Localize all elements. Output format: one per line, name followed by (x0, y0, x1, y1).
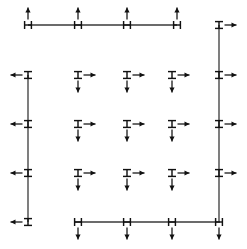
arrow-left-head (11, 170, 16, 175)
arrow-down-head (169, 186, 174, 191)
arrow-down-head (216, 235, 221, 240)
arrow-right-head (91, 170, 96, 175)
arrow-right-head (91, 72, 96, 77)
arrow-up-head (174, 8, 179, 13)
arrow-right-head (232, 170, 237, 175)
node-right-2[interactable] (215, 72, 237, 79)
node-top-4[interactable] (174, 8, 181, 30)
arrow-right-head (232, 72, 237, 77)
node-interior-1-2[interactable] (123, 72, 145, 93)
node-interior-3-3[interactable] (168, 170, 190, 191)
arrow-up-head (25, 8, 30, 13)
arrow-down-head (75, 88, 80, 93)
node-right-4[interactable] (215, 170, 237, 177)
node-bottom-3[interactable] (169, 218, 176, 240)
node-bottom-2[interactable] (124, 218, 131, 240)
node-interior-2-3[interactable] (168, 121, 190, 142)
arrow-down-head (75, 186, 80, 191)
arrow-down-head (169, 235, 174, 240)
node-interior-1-3[interactable] (168, 72, 190, 93)
arrow-right-head (185, 72, 190, 77)
node-left-3[interactable] (11, 170, 33, 177)
node-top-2[interactable] (75, 8, 82, 30)
arrow-down-head (75, 137, 80, 142)
arrow-down-head (124, 235, 129, 240)
arrow-right-head (140, 121, 145, 126)
arrow-down-head (75, 235, 80, 240)
arrow-down-head (124, 186, 129, 191)
arrow-up-head (75, 8, 80, 13)
arrow-left-head (11, 219, 16, 224)
nodes-layer (11, 8, 237, 240)
members-layer (28, 25, 220, 222)
arrow-up-head (124, 8, 129, 13)
node-interior-3-1[interactable] (74, 170, 96, 191)
node-bottom-1[interactable] (75, 218, 82, 240)
node-right-1[interactable] (215, 22, 237, 29)
node-left-1[interactable] (11, 72, 33, 79)
arrow-down-head (124, 88, 129, 93)
arrow-right-head (232, 121, 237, 126)
diagram-canvas (0, 0, 247, 249)
arrow-down-head (124, 137, 129, 142)
arrow-right-head (185, 121, 190, 126)
node-interior-1-1[interactable] (74, 72, 96, 93)
arrow-right-head (91, 121, 96, 126)
arrow-left-head (11, 72, 16, 77)
arrow-down-head (169, 88, 174, 93)
node-top-1[interactable] (25, 8, 32, 30)
node-interior-3-2[interactable] (123, 170, 145, 191)
node-interior-2-2[interactable] (123, 121, 145, 142)
arrow-right-head (232, 22, 237, 27)
arrow-right-head (185, 170, 190, 175)
node-left-4[interactable] (11, 219, 33, 226)
node-interior-2-1[interactable] (74, 121, 96, 142)
node-left-2[interactable] (11, 121, 33, 128)
arrow-right-head (140, 72, 145, 77)
node-right-3[interactable] (215, 121, 237, 128)
arrow-down-head (169, 137, 174, 142)
arrow-left-head (11, 121, 16, 126)
node-top-3[interactable] (124, 8, 131, 30)
arrow-right-head (140, 170, 145, 175)
node-constraint-diagram (0, 0, 247, 249)
